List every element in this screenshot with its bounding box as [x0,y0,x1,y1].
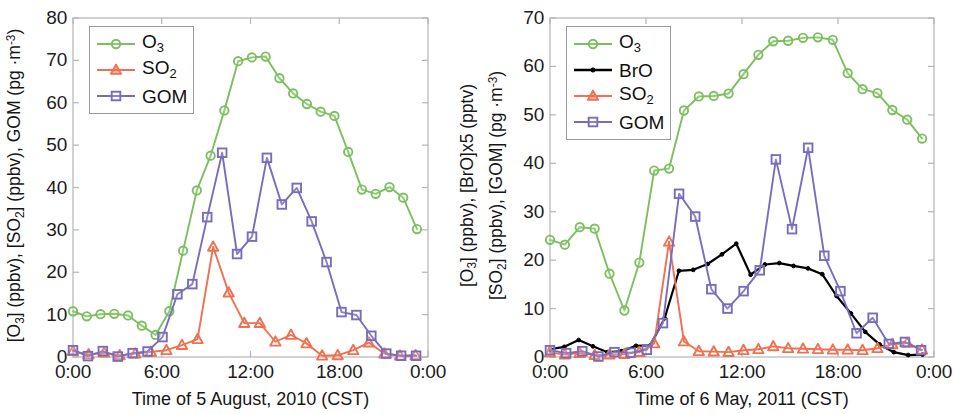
marker-circle [546,236,554,244]
marker-circle [83,312,91,320]
series-line [73,153,416,357]
marker-circle [576,223,584,231]
legend-marker-dot-icon [572,60,614,80]
legend-marker-triangle-icon [95,60,137,80]
marker-circle [330,112,338,120]
legend-sample-svg [95,60,137,80]
marker-dot [820,272,824,276]
legend-sample-svg [572,112,614,132]
marker-square [739,287,748,296]
legend-right: O3BrOSO2GOM [566,26,671,140]
legend-label: SO2 [142,58,177,83]
marker-square [578,347,587,356]
legend-circle-icon [589,40,597,48]
marker-circle [96,310,104,318]
marker-square [263,154,272,163]
series-gom [69,148,421,360]
legend-left: O3SO2GOM [89,26,194,114]
marker-circle [138,321,146,329]
y-tick-label: 20 [27,262,67,281]
legend-marker-circle-icon [572,34,614,54]
x-axis-label-left: Time of 5 August, 2010 (CST) [33,389,468,409]
y-tick-label: 30 [27,220,67,239]
marker-circle [124,311,132,319]
legend-triangle-icon [111,65,121,74]
marker-square [307,217,316,226]
x-tick-label: 18:00 [803,362,873,381]
legend-marker-triangle-icon [572,86,614,106]
marker-circle [710,92,718,100]
chart-panel-right: [O3] (ppbv), [BrO]x5 (pptv)[SO2] (ppbv),… [477,0,954,414]
legend-square-icon [112,92,121,101]
y-tick-label: 40 [504,153,544,172]
legend-sample-svg [572,34,614,54]
marker-square [868,313,877,322]
legend-sample-svg [572,60,614,80]
legend-entry-so2: SO2 [572,83,664,109]
y-tick-label: 30 [504,202,544,221]
y-tick-label: 70 [27,50,67,69]
legend-label: O3 [142,32,164,57]
legend-sample-svg [95,34,137,54]
marker-dot [677,269,681,273]
marker-circle [605,270,613,278]
legend-square-icon [589,118,598,127]
marker-square [143,347,152,356]
marker-square [707,285,716,294]
marker-dot [720,252,724,256]
series-line [73,247,416,356]
legend-label: SO2 [619,84,654,109]
marker-square [397,351,406,360]
marker-dot [634,344,638,348]
marker-circle [769,37,777,45]
marker-circle [724,89,732,97]
figure-container: [O3] (ppbv), [SO2] (ppbv), GOM (pg ·m-3)… [0,0,954,414]
marker-square [292,184,301,193]
marker-dot [863,330,867,334]
x-tick-label: 0:00 [38,362,108,381]
marker-circle [261,52,269,60]
marker-square [412,351,421,360]
series-so2 [545,236,927,359]
marker-circle [620,306,628,314]
marker-square [788,225,797,234]
x-tick-label: 0:00 [515,362,585,381]
marker-dot [691,268,695,272]
marker-circle [206,152,214,160]
marker-circle [888,106,896,114]
legend-entry-o3: O3 [572,31,664,57]
marker-dot [806,266,810,270]
y-tick-label: 10 [27,305,67,324]
legend-sample-svg [572,86,614,106]
marker-circle [635,258,643,266]
y-tick-label: 10 [504,299,544,318]
marker-circle [358,185,366,193]
marker-circle [680,106,688,114]
marker-circle [399,193,407,201]
marker-square [248,232,257,241]
marker-circle [799,34,807,42]
marker-square [128,349,137,358]
marker-square [352,311,361,320]
marker-circle [665,164,673,172]
y-tick-label: 20 [504,250,544,269]
chart-panel-left: [O3] (ppbv), [SO2] (ppbv), GOM (pg ·m-3)… [0,0,477,414]
marker-circle [843,69,851,77]
legend-label: O3 [619,32,641,57]
marker-square [69,346,78,355]
marker-circle [110,310,118,318]
marker-circle [829,36,837,44]
series-so2 [68,241,421,359]
marker-circle [193,186,201,194]
y-tick-label: 70 [504,8,544,27]
marker-square [852,329,861,338]
marker-square [203,213,212,222]
marker-square [675,190,684,199]
marker-circle [918,134,926,142]
marker-circle [814,33,822,41]
marker-square [337,308,346,317]
marker-circle [316,107,324,115]
marker-square [233,250,242,259]
y-tick-label: 50 [504,105,544,124]
marker-circle [695,92,703,100]
